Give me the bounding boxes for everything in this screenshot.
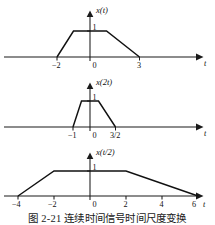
chart-x2t-xticklabel--1: −1 [68, 131, 77, 140]
chart-xt2-xticklabel--4: −4 [12, 200, 21, 209]
chart-x2t-xticklabel-0: 0 [93, 131, 97, 140]
chart-x2t-signal-curve [73, 101, 116, 127]
chart-x2t-axis-label-t: t [204, 129, 207, 138]
chart-xt2-xticklabel-0: 0 [93, 200, 97, 209]
chart-xt2-xticklabel-2: 2 [124, 200, 128, 209]
chart-xt2-y-axis-arrow [87, 153, 94, 160]
figure-caption: 图 2-21 连续时间信号时间尺度变换 [0, 213, 215, 225]
chart-xt2-peak-label: 1 [93, 163, 97, 172]
chart-xt-signal-curve [57, 31, 140, 57]
chart-x2t-x-axis-arrow [196, 124, 204, 131]
chart-x2t-xticklabel-3-2: 3/2 [110, 131, 120, 140]
chart-xt2-signal-curve [18, 171, 198, 196]
chart-xt2: x(t/2) 1 −4 −2 0 2 4 6 t [4, 147, 206, 209]
figure-svg: x(t) 1 −2 0 3 t x(2t) 1 −1 0 3/2 t [0, 0, 215, 225]
figure-container: x(t) 1 −2 0 3 t x(2t) 1 −1 0 3/2 t [0, 0, 215, 225]
chart-xt-peak-label: 1 [93, 23, 97, 32]
chart-xt-x-axis-arrow [196, 54, 204, 61]
chart-x2t: x(2t) 1 −1 0 3/2 t [4, 77, 207, 140]
chart-xt2-signal-label: x(t/2) [95, 147, 115, 157]
chart-xt-signal-label: x(t) [95, 5, 108, 15]
chart-xt2-xticklabel-6: 6 [192, 200, 196, 209]
chart-xt2-xticklabel--2: −2 [48, 200, 57, 209]
chart-xt: x(t) 1 −2 0 3 t [4, 5, 207, 70]
chart-xt-y-axis-arrow [87, 11, 94, 18]
chart-xt2-xticklabel-4: 4 [160, 200, 164, 209]
chart-xt-xticklabel-0: 0 [93, 61, 97, 70]
chart-xt-xticklabel--2: −2 [52, 61, 61, 70]
chart-x2t-y-axis-arrow [87, 83, 94, 90]
chart-x2t-peak-label: 1 [93, 93, 97, 102]
chart-xt2-axis-label-t: t [203, 200, 206, 209]
chart-xt-axis-label-t: t [204, 59, 207, 68]
chart-x2t-signal-label: x(2t) [95, 77, 112, 87]
chart-xt-xticklabel-3: 3 [137, 61, 141, 70]
